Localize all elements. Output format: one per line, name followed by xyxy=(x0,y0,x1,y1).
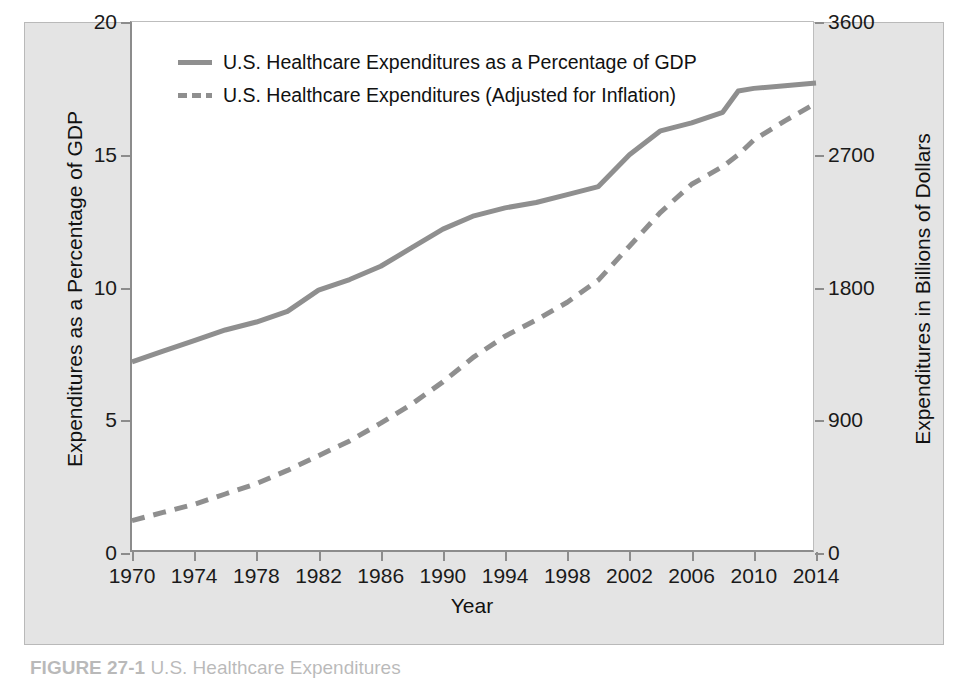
plot-area: U.S. Healthcare Expenditures as a Percen… xyxy=(130,21,814,552)
legend-swatch-solid-line-icon xyxy=(178,60,212,65)
x-axis-tick xyxy=(194,552,196,561)
x-axis-tick-label: 2002 xyxy=(606,564,653,588)
y-axis-title-right: Expenditures in Billions of Dollars xyxy=(909,23,937,554)
legend-swatch-dashed-line-icon xyxy=(178,93,212,98)
series-line-inflation-adjusted xyxy=(132,103,816,520)
y-axis-tick-label-left: 20 xyxy=(94,10,117,34)
x-axis-tick-label: 2014 xyxy=(793,564,840,588)
x-axis-tick xyxy=(256,552,258,561)
x-axis-tick xyxy=(443,552,445,561)
x-axis-tick-label: 1990 xyxy=(420,564,467,588)
x-axis-tick-label: 2010 xyxy=(730,564,777,588)
x-axis-tick xyxy=(381,552,383,561)
plot-inner: U.S. Healthcare Expenditures as a Percen… xyxy=(132,22,813,550)
x-axis-tick-label: 1970 xyxy=(109,564,156,588)
y-axis-title-left: Expenditures as a Percentage of GDP xyxy=(61,23,89,554)
chart-legend: U.S. Healthcare Expenditures as a Percen… xyxy=(178,50,697,116)
y-axis-tick-right xyxy=(815,288,824,290)
x-axis-tick xyxy=(567,552,569,561)
x-axis-title: Year xyxy=(130,594,814,618)
figure-caption: FIGURE 27-1 U.S. Healthcare Expenditures xyxy=(30,657,401,679)
y-axis-tick-label-right: 0 xyxy=(828,541,840,565)
x-axis-tick-label: 1974 xyxy=(171,564,218,588)
y-axis-title-left-text: Expenditures as a Percentage of GDP xyxy=(63,110,87,466)
y-axis-tick-right xyxy=(815,22,824,24)
x-axis-tick xyxy=(692,552,694,561)
y-axis-tick-left xyxy=(121,155,130,157)
y-axis-tick-label-left: 10 xyxy=(94,276,117,300)
legend-label-gdp-percentage: U.S. Healthcare Expenditures as a Percen… xyxy=(223,51,697,74)
legend-entry-inflation-adjusted: U.S. Healthcare Expenditures (Adjusted f… xyxy=(178,83,697,107)
legend-label-inflation-adjusted: U.S. Healthcare Expenditures (Adjusted f… xyxy=(223,84,676,107)
x-axis-tick-label: 2006 xyxy=(668,564,715,588)
legend-entry-gdp-percentage: U.S. Healthcare Expenditures as a Percen… xyxy=(178,50,697,74)
x-axis-tick xyxy=(505,552,507,561)
y-axis-tick-label-left: 15 xyxy=(94,143,117,167)
x-axis-tick-label: 1994 xyxy=(482,564,529,588)
y-axis-tick-right xyxy=(815,420,824,422)
x-axis-tick xyxy=(132,552,134,561)
y-axis-tick-label-right: 1800 xyxy=(828,276,875,300)
figure-panel: Expenditures as a Percentage of GDP Expe… xyxy=(24,22,944,645)
y-axis-tick-label-right: 2700 xyxy=(828,143,875,167)
x-axis-tick-label: 1998 xyxy=(544,564,591,588)
x-axis-tick xyxy=(816,552,818,561)
y-axis-tick-left xyxy=(121,22,130,24)
y-axis-title-right-text: Expenditures in Billions of Dollars xyxy=(911,133,935,445)
figure-caption-text: U.S. Healthcare Expenditures xyxy=(150,657,400,678)
x-axis-tick-label: 1986 xyxy=(357,564,404,588)
y-axis-tick-left xyxy=(121,553,130,555)
series-line-gdp-percentage xyxy=(132,83,816,362)
x-axis-tick xyxy=(754,552,756,561)
y-axis-tick-right xyxy=(815,155,824,157)
x-axis-tick-label: 1978 xyxy=(233,564,280,588)
y-axis-tick-left xyxy=(121,288,130,290)
x-axis-tick xyxy=(319,552,321,561)
x-axis-tick-label: 1982 xyxy=(295,564,342,588)
y-axis-tick-label-left: 0 xyxy=(105,541,117,565)
figure-caption-label: FIGURE 27-1 xyxy=(30,657,145,678)
y-axis-tick-label-right: 3600 xyxy=(828,10,875,34)
y-axis-tick-label-left: 5 xyxy=(105,408,117,432)
y-axis-tick-label-right: 900 xyxy=(828,408,863,432)
y-axis-tick-left xyxy=(121,420,130,422)
x-axis-tick xyxy=(629,552,631,561)
